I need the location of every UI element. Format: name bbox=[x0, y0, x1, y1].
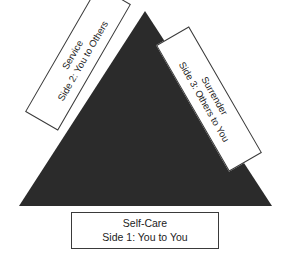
triangle-diagram: Service Side 2: You to Others Surrender … bbox=[0, 0, 286, 257]
label-self-care-side: Side 1: You to You bbox=[102, 231, 187, 244]
label-self-care-name: Self-Care bbox=[123, 217, 167, 230]
label-box-self-care: Self-Care Side 1: You to You bbox=[71, 212, 219, 249]
